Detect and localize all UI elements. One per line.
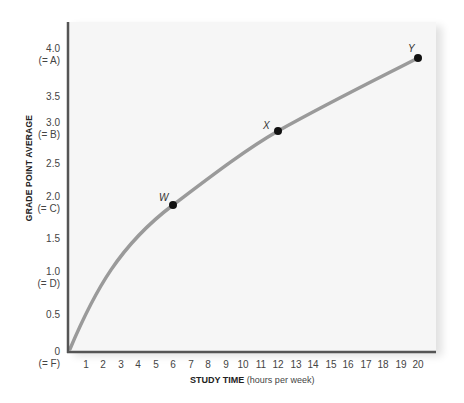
y-tick-1-5: 1.5 [46, 233, 60, 245]
x-tick-2: 2 [100, 359, 106, 370]
y-tick-note: (= F) [39, 358, 60, 370]
x-tick-5: 5 [153, 359, 159, 370]
y-tick-value: 3.5 [46, 91, 60, 103]
point-label-x: X [263, 120, 270, 131]
y-tick-note: (= A) [39, 55, 60, 67]
y-tick-0: 0 (= F) [39, 346, 60, 370]
x-tick-19: 19 [395, 359, 406, 370]
x-tick-4: 4 [135, 359, 141, 370]
y-tick-value: 0.5 [46, 309, 60, 321]
y-tick-4-0: 4.0 (= A) [39, 43, 60, 67]
x-axis-unit: (hours per week) [247, 375, 315, 385]
y-tick-value: 1.5 [46, 233, 60, 245]
x-tick-11: 11 [256, 359, 266, 370]
point-label-w: W [159, 192, 168, 203]
gpa-curve [70, 58, 418, 349]
y-tick-note: (= B) [38, 129, 60, 141]
x-tick-13: 13 [290, 359, 301, 370]
x-tick-7: 7 [188, 359, 194, 370]
y-tick-2-5: 2.5 [46, 158, 60, 170]
x-tick-14: 14 [307, 359, 318, 370]
y-tick-3-0: 3.0 (= B) [38, 117, 60, 141]
x-tick-9: 9 [223, 359, 229, 370]
point-w [169, 201, 177, 209]
y-tick-value: 3.0 [38, 117, 60, 129]
y-tick-0-5: 0.5 [46, 309, 60, 321]
y-axis-label: GRADE POINT AVERAGE [24, 93, 34, 243]
x-tick-6: 6 [170, 359, 176, 370]
x-tick-8: 8 [205, 359, 211, 370]
point-y [414, 54, 422, 62]
x-tick-20: 20 [412, 359, 423, 370]
y-tick-3-5: 3.5 [46, 91, 60, 103]
y-tick-value: 1.0 [38, 266, 61, 278]
x-tick-18: 18 [377, 359, 388, 370]
x-tick-12: 12 [272, 359, 283, 370]
point-label-y: Y [408, 43, 415, 54]
x-tick-17: 17 [360, 359, 371, 370]
y-tick-value: 4.0 [39, 43, 60, 55]
chart-canvas [0, 0, 464, 403]
y-tick-value: 0 [39, 346, 60, 358]
x-axis-label: STUDY TIME (hours per week) [190, 375, 314, 385]
x-tick-3: 3 [118, 359, 124, 370]
x-axis-title: STUDY TIME [190, 375, 244, 385]
y-tick-1-0: 1.0 (= D) [38, 266, 61, 290]
x-tick-1: 1 [83, 359, 89, 370]
x-tick-16: 16 [342, 359, 353, 370]
y-tick-value: 2.0 [38, 191, 61, 203]
y-tick-note: (= C) [38, 203, 61, 215]
point-x [274, 127, 282, 135]
x-tick-10: 10 [237, 359, 248, 370]
y-tick-value: 2.5 [46, 158, 60, 170]
y-tick-2-0: 2.0 (= C) [38, 191, 61, 215]
x-tick-15: 15 [325, 359, 336, 370]
y-tick-note: (= D) [38, 278, 61, 290]
